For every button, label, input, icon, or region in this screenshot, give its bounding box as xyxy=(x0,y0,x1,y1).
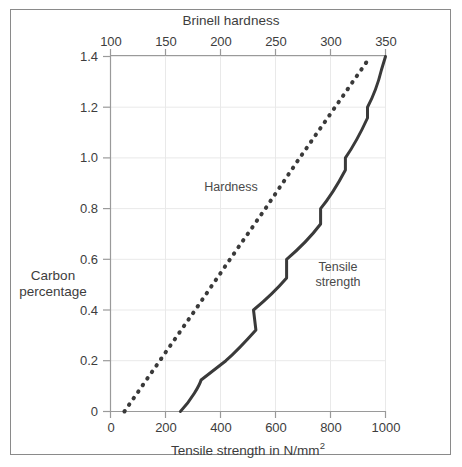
y-tick-label-0-6: 0.6 xyxy=(60,252,98,267)
y-tick-label-0-4: 0.4 xyxy=(60,303,98,318)
y-tick-label-0-2: 0.2 xyxy=(60,353,98,368)
grid-horizontal xyxy=(110,57,386,361)
bottom-tick-label-1000: 1000 xyxy=(369,420,403,435)
bottom-tick-label-200: 200 xyxy=(151,420,181,435)
y-tick-label-0-8: 0.8 xyxy=(60,201,98,216)
top-tick-label-250: 250 xyxy=(261,34,291,49)
bottom-tick-label-800: 800 xyxy=(316,420,346,435)
tensile-strength-series-line xyxy=(180,57,385,412)
y-axis-title: Carbon percentage xyxy=(10,268,96,300)
top-tick-label-300: 300 xyxy=(316,34,346,49)
y-tick-label-0: 0 xyxy=(60,404,98,419)
tensile-strength-series-label: Tensile strength xyxy=(303,260,373,290)
hardness-series-line xyxy=(124,57,370,412)
y-tick-label-1-0: 1.0 xyxy=(60,150,98,165)
y-tick-label-1-4: 1.4 xyxy=(60,49,98,64)
y-axis-title-line-1: Carbon xyxy=(10,268,96,284)
x-axis-title-superscript: 2 xyxy=(320,440,325,451)
top-tick-label-350: 350 xyxy=(371,34,401,49)
hardness-series-label: Hardness xyxy=(196,180,266,195)
chart-figure: Brinell hardness xyxy=(0,0,462,467)
y-tick-label-1-2: 1.2 xyxy=(60,100,98,115)
tensile-label-line-1: Tensile xyxy=(303,260,373,275)
top-tick-label-200: 200 xyxy=(206,34,236,49)
bottom-tick-label-0: 0 xyxy=(96,420,126,435)
plot-canvas xyxy=(0,0,462,467)
y-axis-ticks xyxy=(103,57,110,412)
top-tick-label-100: 100 xyxy=(96,34,126,49)
x-axis-title-text: Tensile strength in N/mm xyxy=(171,443,320,458)
bottom-tick-label-400: 400 xyxy=(206,420,236,435)
top-tick-label-150: 150 xyxy=(151,34,181,49)
tensile-label-line-2: strength xyxy=(303,275,373,290)
x-axis-title: Tensile strength in N/mm2 xyxy=(110,440,386,458)
y-axis-title-line-2: percentage xyxy=(10,284,96,300)
bottom-tick-label-600: 600 xyxy=(261,420,291,435)
